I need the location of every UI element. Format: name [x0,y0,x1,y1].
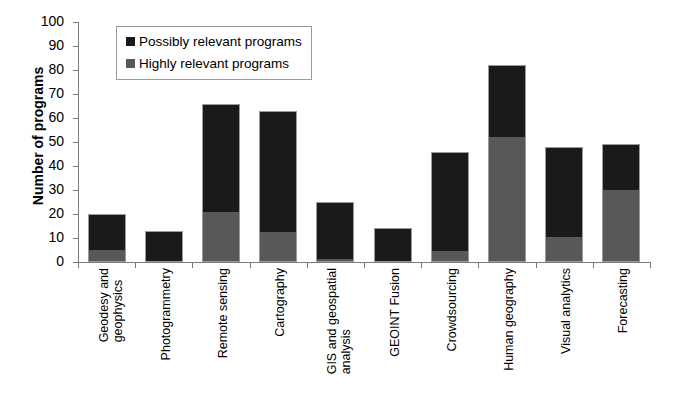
x-axis-label-cartography: Cartography [273,268,287,337]
bar-segment-possibly-relevant [375,229,411,261]
x-axis-label-human-geography: Human geography [502,268,516,371]
x-axis-tick [650,262,651,268]
bar-gis-and-geospatial-analysis [316,202,354,262]
bar-segment-possibly-relevant [317,203,353,259]
bar-segment-highly-relevant [432,251,468,261]
bar-segment-highly-relevant [546,237,582,261]
x-axis-label-line: Human geography [502,268,516,371]
y-axis-tick: 60 [73,118,78,119]
x-axis-label-line: Photogrammetry [159,268,173,360]
x-axis-label-line: Remote sensing [216,268,230,358]
y-axis-tick: 30 [73,190,78,191]
x-axis-label-line: Crowdsourcing [445,268,459,351]
bar-segment-possibly-relevant [146,232,182,261]
x-axis-label-crowdsourcing: Crowdsourcing [445,268,459,351]
x-axis-tick [478,262,479,268]
x-axis-tick [307,262,308,268]
x-axis-label-line: Visual analytics [559,268,573,354]
y-axis-tick: 100 [73,22,78,23]
x-axis-tick [536,262,537,268]
x-axis-tick [78,262,79,268]
bar-segment-highly-relevant [203,212,239,261]
bar-remote-sensing [202,104,240,262]
x-axis-label-line: analysis [339,268,353,374]
x-axis-tick [135,262,136,268]
y-axis-tick-label: 90 [48,37,64,53]
y-axis-tick: 90 [73,46,78,47]
bar-crowdsourcing [431,152,469,262]
bar-chart: Number of programs 100908070605040302010… [0,0,679,412]
bar-photogrammetry [145,231,183,262]
bar-segment-possibly-relevant [546,148,582,237]
bar-geoint-fusion [374,228,412,262]
bar-segment-highly-relevant [489,137,525,261]
bar-human-geography [488,65,526,262]
x-axis-label-visual-analytics: Visual analytics [559,268,573,354]
y-axis-tick-label: 100 [41,13,64,29]
bar-segment-possibly-relevant [89,215,125,250]
x-axis-label-geoint-fusion: GEOINT Fusion [388,268,402,357]
x-axis-label-photogrammetry: Photogrammetry [159,268,173,360]
y-axis-tick-label: 50 [48,133,64,149]
x-axis-tick [192,262,193,268]
x-axis-label-line: GIS and geospatial [325,268,339,374]
x-axis-tick [364,262,365,268]
y-axis-tick: 10 [73,238,78,239]
y-axis-tick-label: 30 [48,181,64,197]
y-axis-tick-label: 40 [48,157,64,173]
legend-swatch-icon-possibly [126,37,135,46]
y-axis-tick-label: 10 [48,229,64,245]
x-axis-label-line: Cartography [273,268,287,337]
x-axis-label-line: geophysics [111,268,125,342]
x-axis-label-line: Geodesy and [97,268,111,342]
x-axis-tick [421,262,422,268]
legend-label-possibly: Possibly relevant programs [139,32,302,51]
y-axis-tick-label: 20 [48,205,64,221]
y-axis-tick: 70 [73,94,78,95]
legend-item-highly-relevant: Highly relevant programs [126,54,302,73]
bar-segment-highly-relevant [89,250,125,262]
x-axis-tick [250,262,251,268]
y-axis-tick-label: 0 [56,253,64,269]
bar-segment-possibly-relevant [489,66,525,137]
y-axis-tick: 40 [73,166,78,167]
bar-segment-possibly-relevant [432,153,468,251]
y-axis-tick: 80 [73,70,78,71]
bar-segment-possibly-relevant [203,105,239,212]
x-axis-tick [593,262,594,268]
y-axis-tick: 20 [73,214,78,215]
legend-label-highly: Highly relevant programs [139,54,289,73]
bar-geodesy-and-geophysics [88,214,126,262]
x-axis-label-remote-sensing: Remote sensing [216,268,230,358]
bar-segment-possibly-relevant [260,112,296,232]
bar-segment-highly-relevant [317,259,353,261]
x-axis-label-forecasting: Forecasting [616,268,630,333]
y-axis-tick-label: 70 [48,85,64,101]
x-axis-label-gis-and-geospatial-analysis: GIS and geospatialanalysis [325,268,353,374]
y-axis-tick: 50 [73,142,78,143]
y-axis-line [78,22,79,263]
legend: Possibly relevant programs Highly releva… [116,26,312,80]
x-axis-label-line: Forecasting [616,268,630,333]
bar-forecasting [602,144,640,262]
x-axis-label-line: GEOINT Fusion [388,268,402,357]
bar-segment-possibly-relevant [603,145,639,190]
x-axis-label-geodesy-and-geophysics: Geodesy andgeophysics [97,268,125,342]
y-axis-tick-label: 80 [48,61,64,77]
legend-item-possibly-relevant: Possibly relevant programs [126,32,302,51]
bar-segment-highly-relevant [603,190,639,261]
bar-cartography [259,111,297,262]
y-axis-tick-label: 60 [48,109,64,125]
y-axis-title: Number of programs [30,36,46,236]
bar-segment-highly-relevant [260,232,296,261]
bar-visual-analytics [545,147,583,262]
legend-swatch-icon-highly [126,59,135,68]
